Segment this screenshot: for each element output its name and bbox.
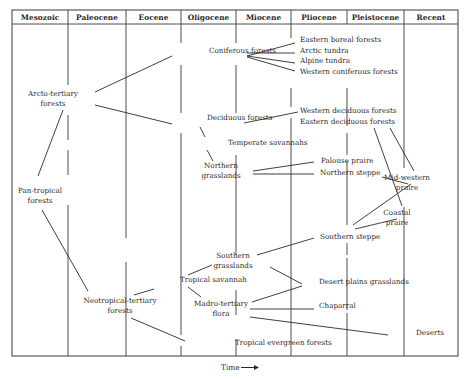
lineage-line: [252, 286, 302, 302]
node-label: Palouse praire: [321, 156, 374, 165]
node-label: Deciduous forests: [207, 113, 273, 122]
era-header-row: MesozoicPaleoceneEoceneOligoceneMioceneP…: [21, 10, 446, 24]
node-label: Northern steppe: [320, 168, 380, 177]
node-deserts: Deserts: [416, 328, 444, 337]
lineage-line: [134, 289, 154, 295]
node-edecid: Eastern deciduous forests: [300, 117, 395, 126]
lineage-line: [200, 127, 205, 137]
node-label: grasslands: [201, 171, 241, 180]
lineage-line: [257, 238, 314, 255]
node-arctic: Arctic tundra: [299, 46, 349, 55]
node-label: praire: [386, 218, 408, 227]
vegetation-type-labels: Arcto-tertiaryforestsPan-tropicalforests…: [18, 35, 444, 347]
node-label: forests: [28, 196, 53, 205]
node-desertpl: Desert plains grasslands: [319, 277, 409, 286]
era-header-mesozoic: Mesozoic: [21, 13, 60, 22]
node-alpine: Alpine tundra: [299, 56, 351, 65]
node-label: Neotropical-tertiary: [83, 296, 157, 305]
node-label: Tropical evergreen forests: [235, 338, 332, 347]
node-label: Tropical savannah: [180, 275, 247, 284]
lineage-line: [250, 317, 388, 335]
node-arcto: Arcto-tertiaryforests: [27, 89, 79, 108]
lineage-line: [131, 318, 185, 341]
lineage-line: [95, 105, 172, 124]
node-tempsav: Temperate savannahs: [228, 138, 308, 147]
node-label: Southern steppe: [320, 232, 380, 241]
time-axis-label: Time: [221, 363, 240, 372]
lineage-line: [188, 265, 212, 275]
node-eboreal: Eastern boreal forests: [300, 35, 381, 44]
node-label: Eastern deciduous forests: [300, 117, 395, 126]
node-label: forests: [41, 99, 66, 108]
node-conif: Coniferous forests: [209, 46, 276, 55]
node-label: Southern: [216, 251, 250, 260]
node-label: Coniferous forests: [209, 46, 276, 55]
node-label: Madro-tertiary: [194, 299, 249, 308]
diagram-canvas: MesozoicPaleoceneEoceneOligoceneMioceneP…: [0, 0, 468, 379]
node-southgr: Southerngrasslands: [213, 251, 253, 270]
node-madro: Madro-tertiaryflora: [194, 299, 249, 318]
node-chaparral: Chaparral: [319, 301, 356, 310]
node-midwest: Mid-westernpraire: [384, 173, 430, 192]
arrow-head: [254, 365, 259, 370]
lineage-line: [374, 128, 402, 206]
lineage-line: [207, 150, 213, 161]
node-label: flora: [213, 309, 231, 318]
node-neotrop: Neotropical-tertiaryforests: [83, 296, 157, 315]
node-label: Chaparral: [319, 301, 356, 310]
era-header-pleistocene: Pleistocene: [352, 13, 400, 22]
node-label: Alpine tundra: [299, 56, 351, 65]
node-pantrop: Pan-tropicalforests: [18, 186, 63, 205]
era-header-recent: Recent: [417, 13, 446, 22]
time-axis: Time: [221, 363, 259, 372]
node-label: Western coniferous forests: [300, 67, 398, 76]
node-nsteppe: Northern steppe: [320, 168, 380, 177]
node-label: Arctic tundra: [299, 46, 349, 55]
node-label: Pan-tropical: [18, 186, 63, 195]
era-header-pliocene: Pliocene: [301, 13, 337, 22]
node-label: grasslands: [213, 261, 253, 270]
node-label: praire: [396, 183, 418, 192]
node-coastal: Coastalpraire: [383, 208, 411, 227]
node-label: Western deciduous forests: [300, 106, 397, 115]
node-label: Coastal: [383, 208, 411, 217]
lineage-line: [270, 267, 302, 284]
node-northgr: Northerngrasslands: [201, 161, 241, 180]
node-label: Desert plains grasslands: [319, 277, 409, 286]
node-label: forests: [108, 306, 133, 315]
arrow-right-icon: [241, 365, 259, 370]
node-decid: Deciduous forests: [207, 113, 273, 122]
lineage-line: [95, 56, 172, 92]
node-palouse: Palouse praire: [321, 156, 374, 165]
node-tropever: Tropical evergreen forests: [235, 338, 332, 347]
era-header-oligocene: Oligocene: [188, 13, 230, 22]
lineage-line: [253, 162, 314, 171]
era-header-miocene: Miocene: [246, 13, 281, 22]
lineage-line: [42, 210, 88, 291]
node-label: Deserts: [416, 328, 444, 337]
node-ssteppe: Southern steppe: [320, 232, 380, 241]
node-label: Mid-western: [384, 173, 430, 182]
node-label: Northern: [204, 161, 238, 170]
era-header-eocene: Eocene: [139, 13, 169, 22]
lineage-line: [38, 110, 63, 176]
lineage-line: [188, 287, 201, 297]
node-label: Arcto-tertiary: [27, 89, 79, 98]
node-label: Temperate savannahs: [228, 138, 308, 147]
node-tropsav: Tropical savannah: [180, 275, 247, 284]
node-wdecid: Western deciduous forests: [300, 106, 397, 115]
node-wconif: Western coniferous forests: [300, 67, 398, 76]
lineage-line: [390, 128, 414, 171]
era-header-paleocene: Paleocene: [76, 13, 118, 22]
node-label: Eastern boreal forests: [300, 35, 381, 44]
vegetation-evolution-diagram: MesozoicPaleoceneEoceneOligoceneMioceneP…: [0, 0, 468, 379]
